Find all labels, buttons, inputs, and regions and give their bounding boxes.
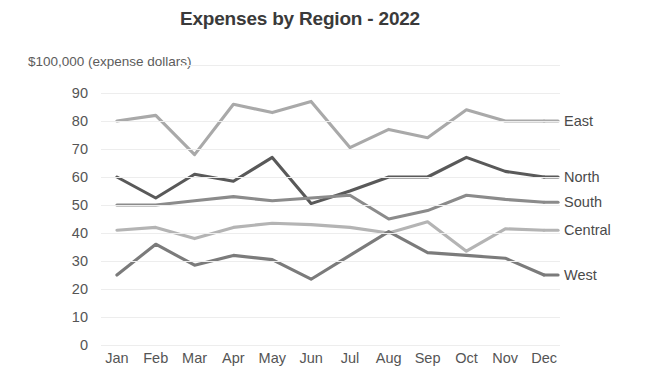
y-axis-tick-label: 10 [18,309,88,325]
gridline [101,205,560,206]
series-label-east: East [564,113,593,129]
x-axis-tick-label: Apr [222,350,245,366]
y-axis-tick-label: 70 [18,141,88,157]
gridline [101,121,560,122]
x-axis-tick-label: Sep [415,350,441,366]
y-axis-tick-label: 50 [18,197,88,213]
series-line-central [117,222,544,251]
gridline [101,289,560,290]
x-axis-tick-label: Oct [455,350,478,366]
x-axis-tick-label: Mar [182,350,207,366]
gridline [101,93,560,94]
y-axis-tick-label: 90 [18,85,88,101]
plot-area [101,93,560,345]
series-line-east [117,101,544,154]
x-axis-tick-label: Jun [299,350,322,366]
y-axis-ticks: 9080706050403020100 [18,93,88,345]
chart-container: Expenses by Region - 2022 $100,000 (expe… [0,0,662,389]
series-line-west [117,232,544,280]
gridline [101,317,560,318]
gridline [101,261,560,262]
x-axis-tick-label: Dec [531,350,557,366]
gridline [101,177,560,178]
x-axis-tick-label: Jan [105,350,128,366]
y-axis-label: $100,000 (expense dollars) [28,54,192,69]
y-axis-tick-label: 60 [18,169,88,185]
chart-title: Expenses by Region - 2022 [0,8,600,30]
series-lines [101,93,560,345]
y-axis-tick-label: 80 [18,113,88,129]
y-axis-tick-label: 40 [18,225,88,241]
series-label-central: Central [564,222,611,238]
x-axis-tick-label: May [259,350,286,366]
series-label-north: North [564,169,599,185]
x-axis-tick-label: Feb [143,350,168,366]
x-axis-tick-label: Jul [341,350,360,366]
x-axis-tick-label: Nov [492,350,518,366]
gridline [101,149,560,150]
y-axis-tick-label: 20 [18,281,88,297]
x-axis-ticks: JanFebMarAprMayJunJulAugSepOctNovDec [101,350,560,372]
gridline [101,345,560,346]
top-gridline [182,65,560,66]
gridline [101,233,560,234]
series-label-west: West [564,267,597,283]
y-axis-tick-label: 30 [18,253,88,269]
x-axis-tick-label: Aug [376,350,402,366]
series-label-south: South [564,194,602,210]
y-axis-tick-label: 0 [18,337,88,353]
